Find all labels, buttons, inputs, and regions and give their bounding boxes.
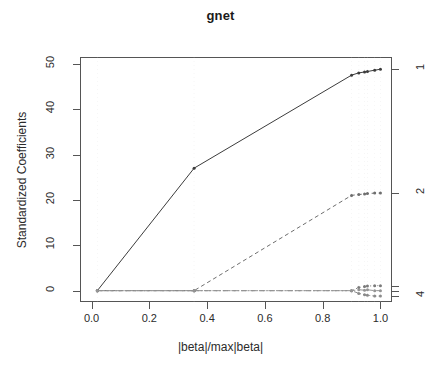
right-axis: 124: [392, 57, 441, 302]
data-point: [373, 289, 376, 292]
y-axis-tick-label: 50: [30, 56, 70, 68]
x-axis-tick-label: 0.0: [72, 312, 112, 324]
series-1: [96, 68, 382, 292]
right-axis-tick: [392, 291, 399, 292]
chart-title: gnet: [0, 8, 441, 23]
data-point: [363, 293, 366, 296]
y-axis-tick-label-text: 0: [44, 286, 56, 292]
x-axis-title: |beta|/max|beta|: [0, 340, 441, 354]
y-axis: 01020304050: [62, 57, 80, 302]
right-axis-tick-label: 2: [408, 185, 432, 197]
data-point: [357, 193, 360, 196]
data-point: [366, 294, 369, 297]
y-axis-tick: [73, 245, 80, 246]
right-axis-tick: [392, 69, 399, 70]
x-axis-tick: [92, 302, 93, 309]
data-point: [373, 284, 376, 287]
x-axis-tick: [207, 302, 208, 309]
data-point: [366, 288, 369, 291]
y-axis-tick: [73, 109, 80, 110]
data-point: [193, 167, 196, 170]
x-axis-tick-label: 0.8: [303, 312, 343, 324]
series-line: [97, 286, 380, 291]
data-point: [350, 74, 353, 77]
data-point: [379, 284, 382, 287]
series-line: [97, 291, 380, 296]
y-axis-tick: [73, 200, 80, 201]
data-point: [379, 295, 382, 298]
data-point: [350, 289, 353, 292]
x-axis-tick: [265, 302, 266, 309]
series-2: [96, 192, 382, 293]
data-point: [193, 289, 196, 292]
data-point: [363, 193, 366, 196]
right-axis-tick-label-text: 1: [414, 64, 426, 70]
data-point: [357, 71, 360, 74]
y-axis-tick-label: 0: [30, 283, 70, 295]
y-axis-tick-label-text: 10: [44, 237, 56, 249]
data-point: [379, 68, 382, 71]
y-axis-tick: [73, 64, 80, 65]
y-axis-tick-label-text: 30: [44, 146, 56, 158]
y-axis-tick-label-text: 50: [44, 56, 56, 68]
data-point: [357, 288, 360, 291]
chart-figure: gnet Standardized Coefficients 010203040…: [0, 0, 441, 384]
x-axis-tick-label: 0.4: [187, 312, 227, 324]
x-axis-tick: [380, 302, 381, 309]
x-axis-tick: [149, 302, 150, 309]
y-axis-tick-label: 40: [30, 101, 70, 113]
y-axis-title-text: Standardized Coefficients: [15, 111, 29, 248]
y-axis-tick-label: 20: [30, 192, 70, 204]
y-axis-tick-label: 10: [30, 237, 70, 249]
data-point: [366, 192, 369, 195]
data-point: [379, 289, 382, 292]
y-axis-tick: [73, 291, 80, 292]
y-axis-tick-label: 30: [30, 147, 70, 159]
data-point: [373, 69, 376, 72]
right-axis-tick-label-text: 4: [414, 291, 426, 297]
right-axis-tick: [392, 296, 399, 297]
right-axis-tick-label-text: 2: [414, 188, 426, 194]
series-line: [97, 69, 380, 290]
right-axis-tick: [392, 286, 399, 287]
data-point: [366, 70, 369, 73]
x-axis-tick: [323, 302, 324, 309]
right-axis-tick: [392, 193, 399, 194]
series-line: [97, 193, 380, 291]
data-point: [350, 194, 353, 197]
data-point: [363, 70, 366, 73]
data-point: [363, 289, 366, 292]
data-point: [366, 285, 369, 288]
right-axis-tick-label: 4: [408, 288, 432, 300]
data-point: [363, 285, 366, 288]
data-point: [379, 192, 382, 195]
y-axis-title: Standardized Coefficients: [14, 57, 30, 302]
y-axis-tick-label-text: 20: [44, 192, 56, 204]
right-axis-tick-label: 1: [408, 61, 432, 73]
x-axis-tick-label: 0.2: [129, 312, 169, 324]
data-point: [373, 192, 376, 195]
x-axis-tick-label: 0.6: [245, 312, 285, 324]
x-axis-tick-label: 1.0: [360, 312, 400, 324]
y-axis-tick-label-text: 40: [44, 101, 56, 113]
data-point: [357, 292, 360, 295]
x-axis: 0.00.20.40.60.81.0: [80, 302, 392, 328]
plot-area: [80, 57, 392, 302]
data-point: [96, 289, 99, 292]
y-axis-tick: [73, 155, 80, 156]
data-point: [373, 295, 376, 298]
